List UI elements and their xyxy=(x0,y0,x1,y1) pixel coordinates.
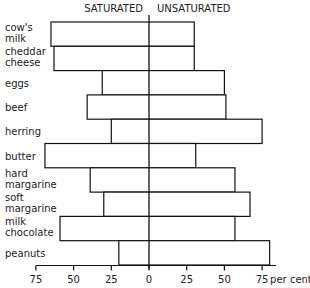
bar-milk-chocolate xyxy=(60,216,235,240)
label-hard-margarine: hardmargarine xyxy=(5,168,57,190)
label-herring: herring xyxy=(5,126,41,137)
x-tick-label: 75 xyxy=(256,274,269,285)
bar-cow-s-milk xyxy=(51,22,194,46)
bar-soft-margarine xyxy=(104,192,250,216)
x-axis-unit: per cent xyxy=(270,274,310,285)
x-tick-label: 75 xyxy=(30,274,43,285)
header-saturated: SATURATED xyxy=(84,3,143,14)
label-soft-margarine: softmargarine xyxy=(5,192,57,214)
x-tick-label: 0 xyxy=(146,274,152,285)
x-tick-label: 25 xyxy=(180,274,193,285)
bar-cheddar-cheese xyxy=(54,46,194,70)
bars-group xyxy=(45,22,270,265)
label-cheddar-cheese: cheddarcheese xyxy=(5,46,47,68)
label-milk-chocolate: milkchocolate xyxy=(5,216,54,238)
category-labels: cow'smilkcheddarcheeseeggsbeefherringbut… xyxy=(5,22,57,259)
label-beef: beef xyxy=(5,102,28,113)
x-axis: 7550250255075per cent xyxy=(30,266,310,285)
bar-butter xyxy=(45,144,196,168)
bar-hard-margarine xyxy=(90,168,235,192)
x-tick-label: 50 xyxy=(218,274,231,285)
bar-eggs xyxy=(102,71,224,95)
x-tick-label: 25 xyxy=(105,274,118,285)
label-peanuts: peanuts xyxy=(5,248,45,259)
bar-herring xyxy=(111,119,262,143)
bar-peanuts xyxy=(119,241,270,265)
fat-composition-chart: SATURATED UNSATURATED cow'smilkcheddarch… xyxy=(0,0,310,288)
label-butter: butter xyxy=(5,151,37,162)
x-tick-label: 50 xyxy=(67,274,80,285)
label-eggs: eggs xyxy=(5,78,29,89)
bar-beef xyxy=(87,95,226,119)
label-cow-s-milk: cow'smilk xyxy=(5,22,33,44)
header-unsaturated: UNSATURATED xyxy=(157,3,231,14)
